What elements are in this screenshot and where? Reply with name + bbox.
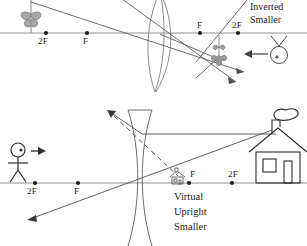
- axis-point-2f-left-bottom: [33, 181, 37, 185]
- concave-lens-right-surface: [142, 110, 152, 246]
- axis-label-f-left-bottom: F: [74, 186, 79, 197]
- axis-label-2f-right-bottom: 2F: [228, 169, 238, 180]
- axis-point-f-right-top: [198, 31, 202, 35]
- ray-arrowhead-lower-right-b: [228, 77, 236, 84]
- axis-point-f-left-top: [85, 31, 89, 35]
- image-description-virtual: Virtual: [174, 191, 203, 203]
- image-description-smaller-top: Smaller: [250, 14, 281, 27]
- eye-observer: [271, 36, 288, 64]
- diverging-lens-diagram: [0, 109, 307, 246]
- image-description-upright: Upright: [174, 206, 207, 218]
- ray-arrowhead-lower-right-a: [236, 68, 244, 74]
- axis-point-2f-right-bottom: [230, 181, 234, 185]
- axis-label-f-right-top: F: [197, 20, 202, 31]
- inverted-flower-image: [211, 35, 226, 66]
- convex-lens: [148, 0, 164, 92]
- optics-ray-diagram-figure: 2F F F 2F Inverted Smaller 2F F F 2F Vir…: [0, 0, 307, 246]
- axis-point-f-right-bottom: [187, 181, 191, 185]
- axis-label-2f-left-bottom: 2F: [27, 186, 37, 197]
- stick-figure-observer: [8, 143, 28, 182]
- image-description-inverted: Inverted: [250, 1, 283, 14]
- view-direction-arrowhead-top: [244, 50, 252, 58]
- flower-object: [21, 0, 41, 33]
- axis-label-2f-left-top: 2F: [38, 36, 48, 47]
- axis-label-f-left-top: F: [83, 36, 88, 47]
- axis-label-2f-right-top: 2F: [232, 20, 242, 31]
- ray-arrowhead-lower-left-bottom: [27, 215, 37, 222]
- axis-point-2f-left-top: [44, 31, 48, 35]
- observer-direction-arrowhead: [38, 147, 46, 155]
- image-description-smaller-bottom: Smaller: [174, 221, 207, 233]
- virtual-ray-dashed: [114, 116, 178, 176]
- chimney-smoke: [274, 109, 298, 120]
- ray-extension-lower-left-top: [196, 60, 216, 78]
- axis-point-f-left-bottom: [76, 181, 80, 185]
- ray-through-center-top: [31, 2, 244, 72]
- axis-label-f-right-bottom: F: [190, 169, 195, 180]
- axis-point-2f-right-top: [236, 31, 240, 35]
- house-object: [249, 109, 307, 183]
- ray-diverged-upper-left: [110, 112, 142, 134]
